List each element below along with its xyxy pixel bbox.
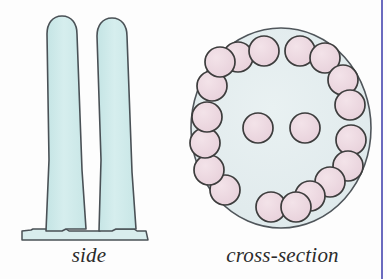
figure-illustration [0,0,387,279]
label-side: side [0,243,178,268]
page-edge-rule [381,0,383,279]
cilium-left [46,16,86,231]
cilium-right [97,18,136,231]
label-cross-section: cross-section [190,243,375,268]
central-singlet-left [243,113,273,143]
central-singlet-right [290,113,320,143]
figure-container: side cross-section [0,0,387,279]
side-view-group [22,16,148,240]
membrane-base [22,229,148,240]
cross-section-group [190,28,371,228]
